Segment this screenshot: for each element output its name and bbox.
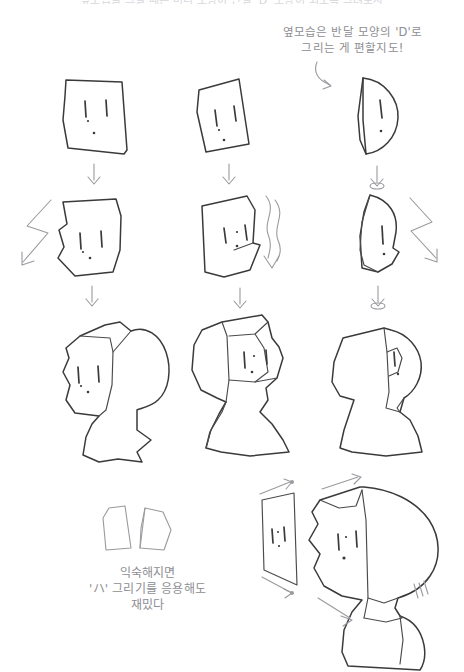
tutorial-page: 옆모습을 그릴 때는 머리 모양이 반달 'D' 모양이 되도록 그려보자 옆모… — [0, 0, 464, 672]
tq-wavy-arrow-right — [264, 196, 280, 268]
tq-step3-three-quarter-head — [192, 315, 289, 456]
tq-step2-tilted-angular-face — [202, 196, 260, 277]
profile-step3-profile-head — [332, 328, 422, 456]
front-zigzag-arrow-left — [22, 200, 51, 265]
flat-panel-bottom-arrow — [262, 577, 294, 598]
tq-arrow-down-1 — [223, 164, 235, 184]
profile-arrow-down-1 — [370, 166, 384, 189]
front-arrow-down-1 — [88, 164, 100, 184]
ha-shape-left-trapezoid — [103, 506, 131, 550]
bottom-final-head — [309, 474, 438, 670]
bottom-flat-panel — [260, 479, 297, 598]
profile-step2-pointed-profile — [360, 195, 399, 272]
front-step1-rectangle-face — [63, 80, 127, 154]
front-step2-angular-face — [58, 199, 121, 276]
curved-pointer-to-d-shape — [316, 62, 331, 89]
profile-step1-half-moon-d — [358, 78, 398, 154]
front-step3-head-with-hair — [63, 322, 169, 462]
tq-step1-tilted-rectangle — [197, 79, 249, 152]
tq-arrow-down-2 — [234, 288, 246, 308]
front-arrow-down-2 — [86, 286, 98, 306]
profile-arrow-down-2 — [371, 286, 385, 309]
profile-zigzag-arrow-right — [410, 198, 437, 262]
ha-shape-right-trapezoid — [140, 508, 171, 550]
sketch-artwork — [0, 0, 464, 672]
flat-panel-top-arrow — [260, 479, 294, 494]
final-head-top-arrow — [322, 474, 361, 489]
